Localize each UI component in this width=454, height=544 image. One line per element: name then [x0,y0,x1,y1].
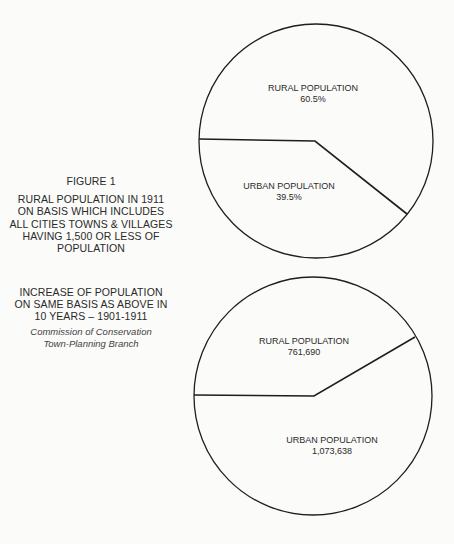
slice-value-rural: 60.5% [300,94,326,104]
slice-label-urban: URBAN POPULATION [243,181,334,191]
slice-value-rural: 761,690 [288,347,321,357]
slice-label-rural: RURAL POPULATION [268,83,358,93]
pie-charts: RURAL POPULATION 60.5% URBAN POPULATION … [0,0,454,544]
slice-label-rural: RURAL POPULATION [259,336,349,346]
slice-label-urban: URBAN POPULATION [286,435,377,445]
slice-value-urban: 1,073,638 [312,446,352,456]
slice-value-urban: 39.5% [276,192,302,202]
pie-divider [199,139,407,214]
pie-chart-1911: RURAL POPULATION 60.5% URBAN POPULATION … [199,24,433,258]
pie-chart-increase: RURAL POPULATION 761,690 URBAN POPULATIO… [194,277,432,515]
